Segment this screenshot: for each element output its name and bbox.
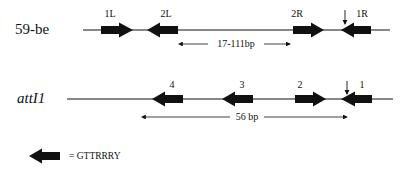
element-label-2R: 2R: [291, 8, 303, 19]
legend: = GTTRRRY: [29, 149, 121, 164]
element-label-1: 1: [360, 79, 365, 90]
row-59-be: 59-be 1L 2L 2R 1R 17-111bp: [15, 8, 390, 49]
element-label-1L: 1L: [104, 8, 115, 19]
inverse-repeat-left-arrow-icon: [147, 23, 178, 38]
element-label-4: 4: [170, 79, 175, 90]
legend-text: = GTTRRRY: [69, 151, 121, 161]
row-attI1: attI1 4 3 2 1 56 bp: [17, 79, 393, 122]
element-label-1R: 1R: [356, 8, 368, 19]
row-label-attI1: attI1: [17, 90, 45, 106]
row-label-59-be: 59-be: [15, 21, 49, 37]
legend-left-arrow-icon: [29, 149, 60, 164]
inverse-repeat-left-arrow-icon: [152, 92, 183, 107]
integron-site-diagram: 59-be 1L 2L 2R 1R 17-111bp attI1 4 3 2: [0, 0, 409, 172]
inverse-repeat-right-arrow-icon: [293, 23, 324, 38]
span-label-56bp: 56 bp: [236, 111, 259, 122]
inverse-repeat-left-arrow-icon: [341, 92, 372, 107]
inverse-repeat-left-arrow-icon: [341, 23, 371, 38]
element-label-2: 2: [298, 79, 303, 90]
inverse-repeat-right-arrow-icon: [295, 92, 326, 107]
span-label-17-111bp: 17-111bp: [217, 38, 255, 49]
inverse-repeat-right-arrow-icon: [101, 23, 133, 38]
inverse-repeat-left-arrow-icon: [222, 92, 253, 107]
element-label-3: 3: [240, 79, 245, 90]
element-label-2L: 2L: [160, 8, 171, 19]
